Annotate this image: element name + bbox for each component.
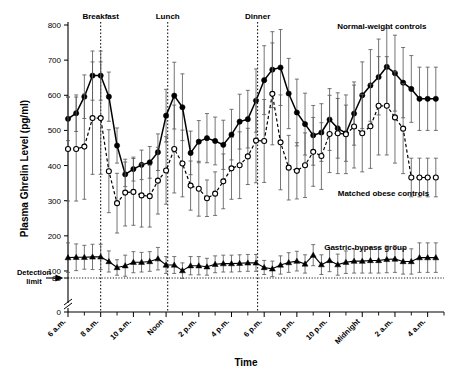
data-point-open-circle <box>172 147 177 152</box>
data-point-open-circle <box>294 168 299 173</box>
data-point-triangle <box>261 264 267 269</box>
x-tick-label-6: 6 p.m. <box>242 317 264 339</box>
x-tick-label-10: 2 a.m. <box>373 317 395 339</box>
x-axis-title: Time <box>234 357 258 368</box>
data-point-open-circle <box>360 131 365 136</box>
meal-label-dinner: Dinner <box>245 12 270 21</box>
meal-label-breakfast: Breakfast <box>82 12 119 21</box>
y-tick-label-800: 800 <box>48 21 62 30</box>
data-point-open-circle <box>409 175 414 180</box>
data-point-open-circle <box>270 91 275 96</box>
data-point-open-circle <box>245 154 250 159</box>
data-point-open-circle <box>433 175 438 180</box>
ghrelin-figure: BreakfastLunchDinner08010020030040050060… <box>0 0 456 371</box>
meal-label-lunch: Lunch <box>156 12 180 21</box>
data-point-open-circle <box>147 194 152 199</box>
data-point-open-circle <box>286 165 291 170</box>
series-label-gastric-bypass-group: Gastric-bypass group <box>324 243 407 252</box>
data-point-open-circle <box>123 190 128 195</box>
data-point-filled-circle <box>172 93 177 98</box>
data-point-open-circle <box>180 161 185 166</box>
data-point-open-circle <box>319 154 324 159</box>
data-point-filled-circle <box>204 136 209 141</box>
data-point-open-circle <box>254 138 259 143</box>
x-tick-label-4: 2 p.m. <box>176 317 198 339</box>
data-point-open-circle <box>368 124 373 129</box>
data-point-open-circle <box>66 147 71 152</box>
data-point-filled-circle <box>196 139 201 144</box>
data-point-filled-circle <box>106 94 111 99</box>
data-point-filled-circle <box>114 143 119 148</box>
data-point-open-circle <box>188 183 193 188</box>
data-point-filled-circle <box>433 96 438 101</box>
data-point-filled-circle <box>180 105 185 110</box>
y-tick-label-600: 600 <box>48 91 62 100</box>
data-point-triangle <box>106 258 112 263</box>
data-point-filled-circle <box>221 142 226 147</box>
y-tick-label-200: 200 <box>48 232 62 241</box>
x-tick-label-3: Noon <box>145 317 165 337</box>
data-point-open-circle <box>74 147 79 152</box>
detection-limit-label-line2: limit <box>26 277 42 286</box>
data-point-open-circle <box>262 138 267 143</box>
data-point-open-circle <box>155 178 160 183</box>
data-point-filled-circle <box>294 110 299 115</box>
data-point-filled-circle <box>286 91 291 96</box>
data-point-filled-circle <box>302 121 307 126</box>
data-point-open-circle <box>343 132 348 137</box>
x-tick-label-9: Midnight <box>333 317 362 346</box>
x-tick-label-8: 10 p.m. <box>304 317 329 342</box>
data-point-open-circle <box>82 144 87 149</box>
data-point-open-circle <box>425 175 430 180</box>
data-point-open-circle <box>417 175 422 180</box>
data-point-filled-circle <box>245 117 250 122</box>
y-tick-label-300: 300 <box>48 197 62 206</box>
plasma-ghrelin-line-chart: BreakfastLunchDinner08010020030040050060… <box>0 0 456 371</box>
x-tick-label-7: 8 p.m. <box>274 317 296 339</box>
data-point-open-circle <box>106 169 111 174</box>
series-label-matched-obese-controls: Matched obese controls <box>338 189 430 198</box>
series-normal-weight-controls <box>65 28 438 186</box>
data-point-open-circle <box>327 131 332 136</box>
series-line <box>68 255 436 270</box>
x-tick-label-5: 4 p.m. <box>209 317 231 339</box>
data-point-open-circle <box>196 186 201 191</box>
data-point-filled-circle <box>409 86 414 91</box>
x-tick-label-1: 8 a.m. <box>79 317 101 339</box>
data-point-triangle <box>155 256 161 261</box>
data-point-open-circle <box>139 193 144 198</box>
data-point-triangle <box>310 252 316 257</box>
data-point-open-circle <box>213 191 218 196</box>
data-point-open-circle <box>115 201 120 206</box>
data-point-open-circle <box>311 149 316 154</box>
data-point-open-circle <box>335 131 340 136</box>
x-tick-label-0: 6 a.m. <box>46 317 68 339</box>
data-point-open-circle <box>278 140 283 145</box>
detection-limit-label-line1: Detection <box>17 268 52 277</box>
x-tick-label-2: 10 a.m. <box>108 317 133 342</box>
detection-limit-arrow-head <box>56 275 62 280</box>
y-tick-label-500: 500 <box>48 126 62 135</box>
data-point-filled-circle <box>188 150 193 155</box>
data-point-filled-circle <box>147 160 152 165</box>
data-point-open-circle <box>204 196 209 201</box>
data-point-filled-circle <box>425 96 430 101</box>
series-label-normal-weight-controls: Normal-weight controls <box>337 22 427 31</box>
data-point-filled-circle <box>213 138 218 143</box>
y-tick-label-0: 0 <box>57 308 62 317</box>
data-point-open-circle <box>237 163 242 168</box>
data-point-filled-circle <box>417 96 422 101</box>
data-point-filled-circle <box>163 113 168 118</box>
data-point-open-circle <box>229 166 234 171</box>
data-point-filled-circle <box>262 78 267 83</box>
data-point-triangle <box>327 257 333 262</box>
data-point-open-circle <box>221 179 226 184</box>
data-point-open-circle <box>164 168 169 173</box>
y-axis-title: Plasma Ghrelin Level (pg/ml) <box>19 100 30 237</box>
data-point-open-circle <box>384 103 389 108</box>
data-point-open-circle <box>98 116 103 121</box>
data-point-open-circle <box>352 124 357 129</box>
x-tick-label-11: 4 a.m. <box>405 317 427 339</box>
y-tick-label-700: 700 <box>48 56 62 65</box>
data-point-open-circle <box>392 115 397 120</box>
